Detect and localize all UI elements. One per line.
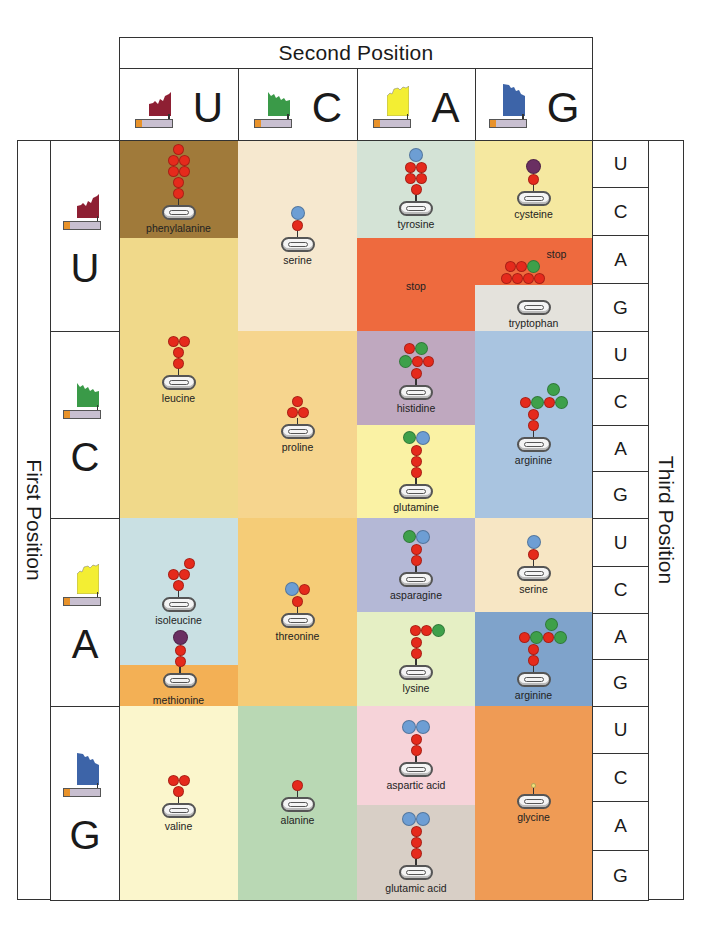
nucleotide-flag-icon <box>63 749 107 799</box>
amino-acid-label: glutamine <box>393 501 439 513</box>
amino-acid-side-chain-icon <box>501 618 567 666</box>
trna-anchor-icon <box>163 673 197 688</box>
amino-acid-label: valine <box>165 820 192 832</box>
amino-acid-label: cysteine <box>514 208 553 220</box>
codon-cell-asparagine: asparagine <box>357 518 476 613</box>
third-base-cell: G <box>592 659 649 707</box>
trna-anchor-icon <box>517 566 551 581</box>
nucleotide-flag-icon <box>489 80 533 130</box>
amino-acid-label: isoleucine <box>155 614 202 626</box>
codon-cell-arginine: arginine <box>475 331 593 519</box>
amino-acid-label: aspartic acid <box>387 779 446 791</box>
amino-acid-side-chain-icon <box>402 720 430 756</box>
first-base-U: U <box>71 246 100 291</box>
amino-acid-label: methionine <box>153 694 204 706</box>
amino-acid-side-chain-icon <box>405 148 427 195</box>
amino-acid-label: arginine <box>515 689 552 701</box>
codon-cell-aspartic-acid: aspartic acid <box>357 706 476 806</box>
trna-anchor-icon <box>281 797 315 812</box>
codon-cell-proline: proline <box>238 331 358 519</box>
trna-anchor-icon <box>399 572 433 587</box>
amino-acid-side-chain-icon <box>287 396 309 418</box>
third-base-cell: C <box>592 187 649 236</box>
trna-anchor-icon <box>399 762 433 777</box>
trna-anchor-icon <box>399 385 433 400</box>
second-position-title: Second Position <box>119 37 593 69</box>
methionine-molecule <box>163 630 197 688</box>
amino-acid-label: phenylalanine <box>146 222 211 234</box>
codon-cell-tryptophan: tryptophan <box>475 285 593 332</box>
second-base-U-header: U <box>119 68 239 141</box>
amino-acid-label: lysine <box>403 682 430 694</box>
amino-acid-side-chain-icon <box>388 624 445 659</box>
third-base-cell: C <box>592 753 649 802</box>
nucleotide-flag-icon <box>373 80 417 130</box>
amino-acid-side-chain-icon <box>402 812 430 859</box>
trna-anchor-icon <box>517 191 551 206</box>
second-base-C: C <box>312 84 342 132</box>
amino-acid-label: leucine <box>162 392 195 404</box>
third-base-cell: G <box>592 850 649 901</box>
second-base-G: G <box>547 84 580 132</box>
first-base-U-cell: U <box>50 140 120 332</box>
codon-cell-phenylalanine: phenylalanine <box>119 140 239 239</box>
stop-label: stop <box>547 248 567 260</box>
third-base-cell: G <box>592 471 649 519</box>
nucleotide-flag-icon <box>63 182 107 232</box>
amino-acid-label: arginine <box>515 454 552 466</box>
third-base-cell: U <box>592 518 649 567</box>
amino-acid-side-chain-icon <box>168 336 190 369</box>
amino-acid-label: glycine <box>517 811 550 823</box>
second-base-C-header: C <box>238 68 358 141</box>
trna-anchor-icon <box>517 437 551 452</box>
codon-cell-serine: serine <box>238 140 358 332</box>
first-position-title: First Position <box>17 140 51 900</box>
third-base-cell: A <box>592 613 649 660</box>
stop-label: stop <box>406 280 426 292</box>
codon-cell-stop: stop <box>475 238 593 286</box>
trna-anchor-icon <box>399 665 433 680</box>
first-base-G-cell: G <box>50 706 120 901</box>
amino-acid-side-chain-icon <box>285 582 310 607</box>
amino-acid-side-chain-icon <box>403 530 430 566</box>
codon-cell-threonine: threonine <box>238 518 358 707</box>
first-position-label: First Position <box>22 459 46 580</box>
amino-acid-label: glutamic acid <box>385 882 446 894</box>
second-base-U: U <box>193 84 223 132</box>
trna-anchor-icon <box>517 672 551 687</box>
third-base-cell: A <box>592 425 649 472</box>
first-base-C-cell: C <box>50 331 120 519</box>
amino-acid-label: serine <box>519 583 548 595</box>
third-base-cell: C <box>592 378 649 426</box>
amino-acid-side-chain-icon <box>403 431 430 478</box>
trna-anchor-icon <box>399 484 433 499</box>
amino-acid-side-chain-icon <box>168 775 190 797</box>
codon-cell-glycine: glycine <box>475 706 593 901</box>
first-base-C: C <box>71 435 100 480</box>
amino-acid-label: threonine <box>276 630 320 642</box>
trna-anchor-icon <box>281 237 315 252</box>
trna-anchor-icon <box>162 205 196 220</box>
amino-acid-side-chain-icon <box>501 260 545 284</box>
amino-acid-side-chain-icon <box>292 780 303 791</box>
amino-acid-label: histidine <box>397 402 436 414</box>
trna-anchor-icon <box>162 597 196 612</box>
amino-acid-side-chain-icon <box>399 342 434 379</box>
codon-cell-cysteine: cysteine <box>475 140 593 239</box>
trna-anchor-icon <box>162 375 196 390</box>
codon-cell-glutamine: glutamine <box>357 425 476 519</box>
third-base-cell: A <box>592 235 649 284</box>
first-base-A-cell: A <box>50 518 120 707</box>
codon-cell-leucine: leucine <box>119 238 239 519</box>
first-base-G: G <box>69 813 100 858</box>
amino-acid-side-chain-icon <box>163 630 197 667</box>
amino-acid-label: alanine <box>281 814 315 826</box>
amino-acid-side-chain-icon <box>291 206 305 231</box>
nucleotide-flag-icon <box>254 80 298 130</box>
third-position-title: Third Position <box>648 140 684 900</box>
second-position-label: Second Position <box>279 41 434 65</box>
trna-anchor-icon <box>517 794 551 809</box>
second-base-A: A <box>431 84 459 132</box>
third-base-cell: U <box>592 706 649 754</box>
trna-anchor-icon <box>281 424 315 439</box>
